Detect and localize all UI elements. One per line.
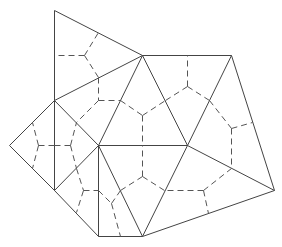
dual-edge [166, 87, 188, 101]
dual-edge [71, 146, 77, 169]
dual-edge [99, 191, 112, 204]
dual-edge [77, 101, 99, 123]
dual-edge [77, 191, 84, 213]
dual-edge [204, 191, 209, 214]
dual-edge [143, 101, 166, 116]
dual-edge [85, 56, 99, 78]
edge-GJ [55, 191, 99, 237]
dual-edge [33, 123, 39, 146]
dual-graph-edges [33, 33, 253, 237]
edge-BH [143, 56, 188, 146]
dual-edge [121, 177, 143, 191]
dual-edge [210, 101, 232, 129]
dual-edge [112, 191, 121, 204]
edge-CI [232, 56, 275, 191]
dual-edge [188, 87, 210, 101]
dual-edge [143, 177, 165, 191]
dual-edge [112, 204, 121, 237]
dual-edge [33, 146, 39, 169]
dual-edge [77, 169, 84, 191]
dual-edge [85, 33, 99, 56]
triangulation-edges [10, 11, 275, 237]
edge-DE [10, 101, 55, 146]
dual-edge [71, 123, 77, 146]
dual-edge [121, 101, 143, 116]
edge-EG [10, 146, 55, 191]
dual-edge [204, 169, 232, 191]
dual-edge [232, 123, 253, 129]
triangulation-dual-diagram [0, 0, 282, 247]
edge-AB [55, 11, 143, 56]
